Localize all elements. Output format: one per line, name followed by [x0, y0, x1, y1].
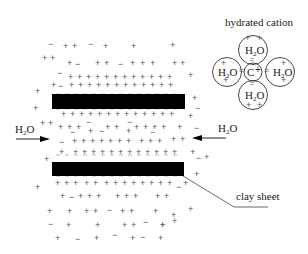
positive-charge: + [120, 206, 125, 216]
negative-charge: − [112, 230, 117, 240]
positive-charge: + [109, 147, 114, 157]
positive-charge: + [131, 220, 136, 230]
positive-charge: + [168, 80, 173, 90]
positive-charge: + [204, 152, 209, 162]
positive-charge: + [148, 136, 153, 146]
svg-text:+: + [281, 58, 286, 68]
positive-charge: + [61, 109, 66, 119]
positive-charge: + [194, 169, 199, 179]
positive-charge: + [124, 191, 129, 201]
positive-charge: + [95, 220, 100, 230]
positive-charge: + [142, 109, 147, 119]
svg-text:=: = [264, 65, 269, 75]
positive-charge: + [40, 118, 45, 128]
positive-charge: + [95, 58, 100, 68]
positive-charge: + [108, 136, 113, 146]
positive-charge: + [93, 206, 98, 216]
positive-charge: + [82, 147, 87, 157]
svg-text:+: + [245, 33, 250, 43]
positive-charge: + [145, 147, 150, 157]
positive-charge: + [50, 53, 55, 63]
positive-charge: + [127, 147, 132, 157]
negative-charge: − [58, 81, 63, 91]
positive-charge: + [172, 147, 177, 157]
positive-charge: + [143, 122, 148, 132]
positive-charge: + [55, 233, 60, 243]
water-label-left: H2O [15, 123, 34, 137]
positive-charge: + [169, 109, 174, 119]
positive-charge: + [134, 122, 139, 132]
arrow-right-icon [40, 136, 50, 142]
positive-charge: + [72, 136, 77, 146]
positive-charge: + [91, 147, 96, 157]
negative-charge: − [196, 153, 201, 163]
negative-charge: − [107, 205, 112, 215]
positive-charge: + [114, 80, 119, 90]
positive-charge: + [115, 191, 120, 201]
positive-charge: + [81, 136, 86, 146]
negative-charge: − [75, 234, 80, 244]
positive-charge: + [157, 136, 162, 146]
positive-charge: + [73, 147, 78, 157]
svg-text:=: = [250, 56, 254, 63]
positive-charge: + [103, 41, 108, 51]
positive-charge: + [155, 191, 160, 201]
positive-charge: + [64, 178, 69, 188]
positive-charge: + [87, 80, 92, 90]
positive-charge: + [158, 233, 163, 243]
positive-charge: + [141, 80, 146, 90]
svg-text:=: = [250, 80, 254, 87]
positive-charge: + [188, 204, 193, 214]
positive-charge: + [60, 191, 65, 201]
positive-charge: + [73, 178, 78, 188]
positive-charge: + [180, 134, 185, 144]
negative-charge: − [59, 137, 64, 147]
positive-charge: + [150, 80, 155, 90]
arrow-left-icon [192, 135, 202, 141]
svg-text:+: + [255, 64, 261, 75]
positive-charge: + [140, 58, 145, 68]
negative-charge: − [88, 39, 93, 49]
positive-charge: + [97, 109, 102, 119]
positive-charge: + [183, 178, 188, 188]
positive-charge: + [114, 122, 119, 132]
positive-charge: + [130, 58, 135, 68]
positive-charge: + [67, 58, 72, 68]
positive-charge: + [84, 178, 89, 188]
positive-charge: + [105, 122, 110, 132]
svg-text:H2O: H2O [245, 44, 264, 58]
positive-charge: + [84, 206, 89, 216]
clay-sheet-callout: clay sheet [183, 176, 280, 207]
positive-charge: + [123, 80, 128, 90]
positive-charge: + [117, 136, 122, 146]
positive-charge: + [192, 93, 197, 103]
negative-charge: − [57, 68, 62, 78]
positive-charge: + [171, 134, 176, 144]
svg-text:=: = [239, 65, 244, 75]
positive-charge: + [126, 136, 131, 146]
positive-charge: + [118, 147, 123, 157]
positive-charge: + [159, 80, 164, 90]
svg-text:+: + [246, 100, 251, 110]
positive-charge: + [129, 206, 134, 216]
clay-sheet-label: clay sheet [236, 190, 280, 202]
water-label-right: H2O [218, 122, 237, 136]
positive-charge: + [140, 178, 145, 188]
hydrated-cation-diagram: hydrated cation H2O H2O H2O H2O C + = = … [213, 16, 295, 110]
top-clay-sheet [52, 94, 185, 109]
positive-charge: + [115, 109, 120, 119]
positive-charge: + [133, 191, 138, 201]
negative-charge: − [143, 217, 148, 227]
charge-field: −++−++++++−++−+++++−++++++++++++++−+++++… [33, 39, 209, 244]
positive-charge: + [90, 136, 95, 146]
svg-text:+: + [221, 58, 226, 68]
positive-charge: + [126, 126, 131, 136]
negative-charge: − [176, 182, 181, 192]
positive-charge: + [66, 220, 71, 230]
positive-charge: + [161, 122, 166, 132]
positive-charge: + [47, 206, 52, 216]
bottom-clay-sheet [52, 162, 184, 176]
positive-charge: + [35, 86, 40, 96]
positive-charge: + [99, 136, 104, 146]
positive-charge: + [167, 178, 172, 188]
